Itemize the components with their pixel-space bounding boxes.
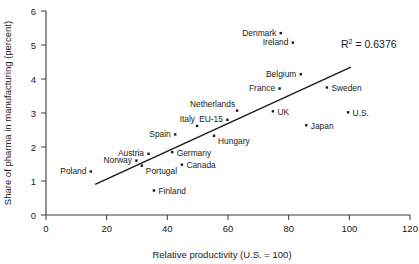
point-marker [347,111,349,113]
point-label: Germany [177,148,212,158]
point-label: Italy [180,114,196,124]
y-tick-label: 5 [31,40,36,51]
data-point: Spain [149,129,176,139]
point-label: U.S. [353,108,369,118]
data-point: Japan [305,121,334,131]
data-point: Ireland [263,37,294,47]
y-axis-title: Share of pharma in manufacturing (percen… [2,21,13,205]
point-label: Belgium [266,69,296,79]
y-tick-label: 2 [31,142,36,153]
data-point: Netherlands [190,99,238,112]
data-point: Sweden [326,83,362,93]
data-point: Portugal [141,165,178,176]
point-marker [174,133,176,135]
data-point: Denmark [242,28,282,38]
data-point: UK [272,107,290,117]
x-tick-label: 40 [162,223,173,234]
data-point: Finland [153,186,187,196]
point-marker [171,151,173,153]
point-marker [280,32,282,34]
chart-canvas: 0123456 020406080100120 PolandNorwayAust… [0,0,419,264]
r-squared-annotation: R2 = 0.6376 [341,38,397,50]
data-point: Hungary [213,135,251,146]
point-marker [90,170,92,172]
x-tick-group: 020406080100120 [43,215,418,234]
y-tick-label: 1 [31,176,36,187]
point-marker [135,159,137,161]
point-marker [147,153,149,155]
x-tick-label: 20 [101,223,112,234]
point-label: Denmark [242,28,277,38]
point-marker [236,109,238,111]
point-label: Portugal [146,166,177,176]
data-points-group: PolandNorwayAustriaPortugalFinlandGerman… [60,28,369,196]
point-marker [181,163,183,165]
point-marker [226,119,228,121]
point-marker [141,165,143,167]
x-tick-label: 0 [43,223,48,234]
data-point: Belgium [266,69,302,79]
point-marker [305,124,307,126]
y-tick-label: 3 [31,108,36,119]
data-point: France [249,83,281,93]
x-tick-label: 100 [341,223,357,234]
x-axis: 020406080100120 [43,215,418,234]
point-marker [196,125,198,127]
x-axis-title: Relative productivity (U.S. = 100) [152,249,291,260]
point-marker [272,110,274,112]
point-label: Netherlands [190,99,235,109]
point-marker [213,135,215,137]
y-tick-label: 6 [31,6,36,17]
data-point: Italy [180,114,199,127]
point-marker [278,87,280,89]
r-squared-value: = 0.6376 [353,38,397,50]
point-label: UK [277,107,289,117]
y-tick-label: 0 [31,210,36,221]
data-point: Poland [60,166,92,176]
point-label: Poland [60,166,86,176]
point-marker [292,41,294,43]
data-point: Germany [171,148,212,158]
point-marker [326,86,328,88]
point-label: Hungary [218,136,250,146]
point-label: Ireland [263,37,289,47]
data-point: U.S. [347,108,369,118]
point-label: Austria [118,148,144,158]
data-point: Canada [181,160,216,170]
point-label: Finland [158,186,186,196]
x-tick-label: 120 [402,223,418,234]
y-axis: 0123456 [31,6,46,221]
point-label: France [249,83,275,93]
point-label: Japan [311,121,334,131]
data-point: Austria [118,148,150,158]
point-marker [300,73,302,75]
x-tick-label: 80 [283,223,294,234]
point-label: EU-15 [199,114,223,124]
point-label: Canada [186,160,216,170]
point-label: Sweden [331,83,362,93]
scatter-chart: 0123456 020406080100120 PolandNorwayAust… [0,0,419,264]
data-point: EU-15 [199,114,228,124]
y-tick-group: 0123456 [31,6,46,221]
point-marker [153,189,155,191]
x-tick-label: 60 [223,223,234,234]
y-tick-label: 4 [31,74,36,85]
point-label: Spain [149,129,171,139]
